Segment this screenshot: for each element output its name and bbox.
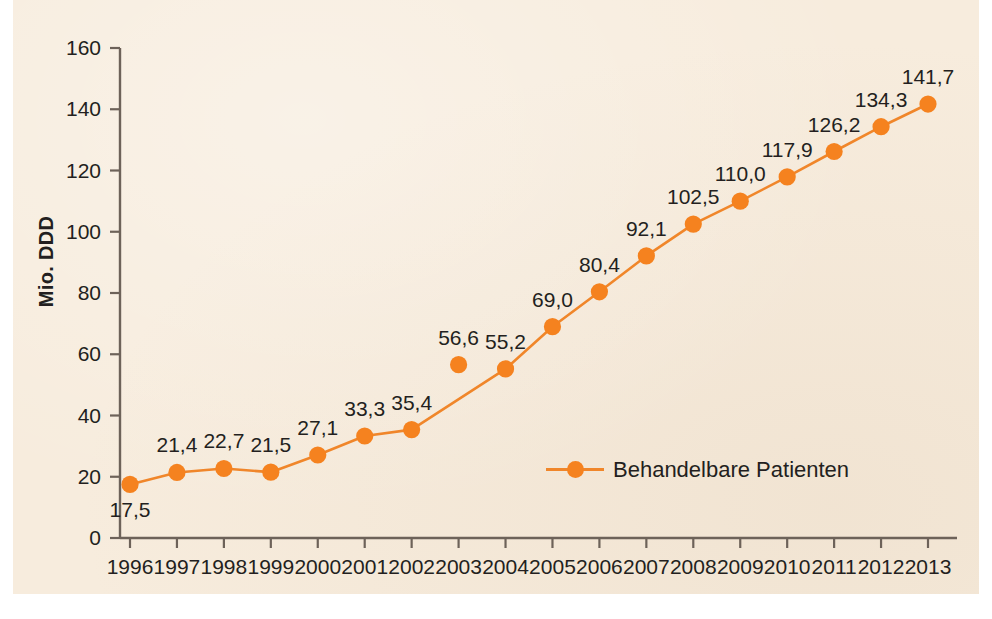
data-point-label: 21,5	[250, 433, 291, 457]
y-axis-tick-label: 60	[13, 342, 101, 366]
data-point-label: 80,4	[579, 253, 620, 277]
x-axis-tick-label: 1996	[107, 555, 154, 579]
x-axis-tick-label: 1999	[247, 555, 294, 579]
data-point-label: 55,2	[485, 330, 526, 354]
x-axis-tick-label: 2001	[341, 555, 388, 579]
legend-item-label: Behandelbare Patienten	[613, 457, 849, 483]
data-point-label: 141,7	[902, 65, 955, 89]
y-axis-title: Mio. DDD	[35, 202, 58, 322]
x-axis-tick-label: 2005	[529, 555, 576, 579]
y-axis-tick-label: 160	[13, 36, 101, 60]
data-point-label: 110,0	[715, 162, 766, 186]
chart-legend: Behandelbare Patienten	[546, 457, 849, 483]
legend-line-swatch	[546, 468, 604, 471]
line-chart-svg	[13, 0, 979, 594]
x-axis-tick-label: 2010	[764, 555, 811, 579]
data-point-label: 33,3	[344, 397, 385, 421]
x-axis-tick-label: 2003	[435, 555, 482, 579]
data-point-label: 117,9	[762, 138, 813, 162]
data-point-label: 22,7	[203, 429, 244, 453]
y-axis-tick-label: 140	[13, 97, 101, 121]
y-axis-tick-label: 40	[13, 404, 101, 428]
legend-marker-icon	[567, 461, 584, 478]
x-axis-tick-label: 2012	[858, 555, 905, 579]
x-axis-tick-label: 2007	[623, 555, 670, 579]
x-axis-tick-label: 1998	[201, 555, 248, 579]
x-axis-tick-label: 2009	[717, 555, 764, 579]
data-point-label: 21,4	[157, 433, 198, 457]
data-point-label: 17,5	[110, 498, 151, 522]
data-point-label: 69,0	[532, 288, 573, 312]
data-point-label: 27,1	[297, 416, 338, 440]
data-point-label: 126,2	[808, 113, 861, 137]
y-axis-tick-label: 0	[13, 526, 101, 550]
x-axis-tick-label: 1997	[154, 555, 201, 579]
data-point-label: 134,3	[855, 88, 908, 112]
x-axis-tick-label: 2006	[576, 555, 623, 579]
y-axis-tick-label: 120	[13, 159, 101, 183]
data-point-label: 92,1	[626, 217, 667, 241]
chart-plot-area: 0204060801001201401601996199719981999200…	[13, 0, 979, 594]
x-axis-tick-label: 2004	[482, 555, 529, 579]
x-axis-tick-label: 2008	[670, 555, 717, 579]
data-point-label: 35,4	[391, 391, 432, 415]
x-axis-tick-label: 2011	[812, 555, 857, 579]
y-axis-tick-label: 20	[13, 465, 101, 489]
data-point-label: 102,5	[667, 185, 720, 209]
x-axis-tick-label: 2013	[905, 555, 952, 579]
x-axis-tick-label: 2002	[388, 555, 435, 579]
x-axis-tick-label: 2000	[294, 555, 341, 579]
chart-figure: 0204060801001201401601996199719981999200…	[13, 0, 979, 594]
data-point-label: 56,6	[438, 326, 479, 350]
